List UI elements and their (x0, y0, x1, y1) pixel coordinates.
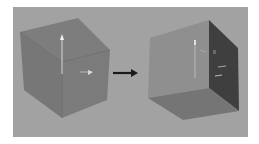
rotation-figure (0, 0, 259, 144)
figure-canvas (0, 0, 259, 144)
